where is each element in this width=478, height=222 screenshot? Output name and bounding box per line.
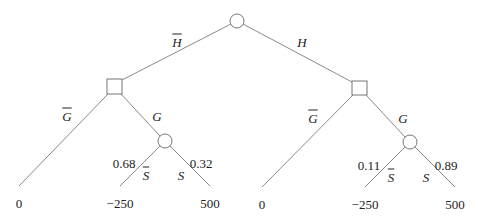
payoff-left-s: 500 [200, 197, 220, 210]
branch-label-left-g-bar: G [62, 110, 71, 123]
probability-left-s: 0.32 [190, 157, 213, 170]
probability-right-s-bar: 0.11 [358, 159, 380, 172]
edge-h [243, 24, 352, 82]
branch-label-h-bar: H [172, 36, 181, 49]
root-chance-node [230, 14, 244, 28]
probability-right-s: 0.89 [435, 159, 458, 172]
edge-right-g-bar [262, 95, 353, 187]
branch-label-h: H [297, 36, 306, 49]
branch-label-left-s-bar: S [143, 169, 150, 182]
decision-tree-diagram: H H G G G G 0.68 S S 0.32 0.11 S S 0.89 … [0, 0, 478, 222]
right-chance-node [403, 135, 417, 149]
branch-label-right-s: S [423, 171, 430, 184]
branch-label-left-g: G [152, 110, 161, 123]
branch-label-right-g-bar: G [308, 112, 317, 125]
left-decision-node [107, 79, 122, 94]
payoff-right-no-g: 0 [259, 198, 266, 211]
probability-left-s-bar: 0.68 [113, 157, 136, 170]
payoff-left-no-g: 0 [16, 197, 23, 210]
right-decision-node [352, 81, 367, 95]
branch-label-left-s: S [178, 169, 185, 182]
payoff-right-s-bar: −250 [352, 198, 379, 211]
branch-label-right-g: G [398, 112, 407, 125]
payoff-right-s: 500 [445, 198, 465, 211]
left-chance-node [158, 134, 172, 148]
payoff-left-s-bar: −250 [107, 197, 134, 210]
branch-label-right-s-bar: S [388, 171, 395, 184]
edge-h-bar [122, 24, 231, 80]
